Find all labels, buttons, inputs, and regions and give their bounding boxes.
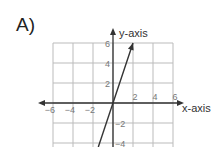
- y-axis-label: y-axis: [119, 27, 148, 39]
- svg-text:−2: −2: [85, 105, 95, 115]
- svg-text:−6: −6: [45, 105, 55, 115]
- axes: [38, 28, 184, 147]
- svg-text:6: 6: [105, 39, 110, 49]
- svg-text:4: 4: [152, 92, 157, 102]
- svg-text:2: 2: [132, 92, 137, 102]
- chart: −6−4−2246642−2−4 x-axis y-axis: [0, 0, 218, 147]
- x-axis-label: x-axis: [182, 102, 211, 114]
- svg-text:−4: −4: [115, 139, 125, 147]
- svg-text:2: 2: [105, 79, 110, 89]
- tick-labels: −6−4−2246642−2−4: [45, 39, 178, 147]
- svg-text:−4: −4: [65, 105, 75, 115]
- svg-text:6: 6: [172, 92, 177, 102]
- data-line: [98, 43, 133, 147]
- svg-text:−2: −2: [115, 119, 125, 129]
- svg-text:4: 4: [105, 59, 110, 69]
